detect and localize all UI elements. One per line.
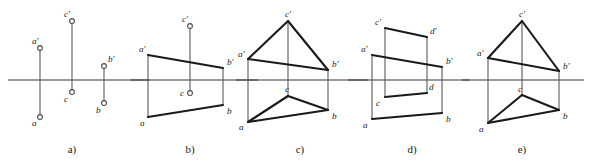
edge-c-ap-cp [248, 21, 288, 59]
vertex-label-e-bp: b' [563, 61, 571, 71]
edge-d-c-d [385, 93, 427, 97]
vertex-label-a-b: b [96, 105, 101, 115]
vertex-label-b-b: b [227, 106, 232, 116]
panel-caption-e: e) [518, 143, 527, 156]
vertex-label-c-b: b [332, 111, 337, 121]
point-marker-a-a [38, 115, 43, 120]
vertex-label-e-a: a [479, 124, 484, 134]
edge-e-a-c [488, 95, 522, 123]
point-marker-a-cp [70, 19, 75, 24]
edge-d-cp-dp [385, 28, 427, 37]
vertex-label-d-bp: b' [446, 56, 454, 66]
vertex-label-b-c: c [180, 88, 184, 98]
projection-drawing-canvas: a'ac'cb'ba)a'ac'cb'bb)a'ac'cb'bc)a'ac'cd… [0, 0, 592, 166]
edge-e-ap-cp [488, 21, 522, 58]
vertex-label-a-c: c [64, 94, 68, 104]
edge-e-c-b [522, 95, 559, 110]
vertex-label-d-ap: a' [361, 44, 369, 54]
vertex-label-e-cp: c' [519, 9, 526, 19]
vertex-label-c-ap: a' [238, 49, 246, 59]
edge-d-ap-bp [372, 55, 442, 67]
point-marker-b-cp [188, 24, 193, 29]
edge-e-ap-bp [488, 58, 559, 71]
edge-c-cp-bp [288, 21, 328, 70]
point-marker-a-b [102, 101, 107, 106]
edge-e-cp-bp [522, 21, 559, 71]
vertex-label-b-cp: c' [182, 14, 189, 24]
vertex-label-d-dp: d' [430, 26, 438, 36]
vertex-label-a-ap: a' [32, 36, 40, 46]
panel-caption-a: a) [68, 143, 77, 156]
panel-b: a'ac'cb'bb) [130, 14, 258, 156]
point-marker-a-ap [38, 46, 43, 51]
panel-e: a'ac'cb'be) [462, 9, 584, 156]
vertex-label-b-a: a [140, 118, 145, 128]
vertex-label-c-c: c [285, 84, 289, 94]
vertex-label-c-a: a [239, 122, 244, 132]
panel-c: a'ac'cb'bc) [236, 9, 368, 156]
point-marker-a-bp [102, 64, 107, 69]
vertex-label-c-cp: c' [285, 9, 292, 19]
vertex-label-a-bp: b' [108, 54, 116, 64]
vertex-label-d-a: a [363, 120, 368, 130]
point-marker-b-c [188, 91, 193, 96]
projection-figure: a'ac'cb'ba)a'ac'cb'bb)a'ac'cb'bc)a'ac'cd… [0, 0, 592, 166]
edge-c-a-b [248, 110, 328, 122]
vertex-label-c-bp: b' [332, 59, 340, 69]
edge-c-c-b [288, 96, 328, 110]
vertex-label-e-ap: a' [477, 48, 485, 58]
vertex-label-a-cp: c' [64, 9, 71, 19]
vertex-label-d-cp: c' [375, 17, 382, 27]
vertex-label-e-c: c [518, 84, 522, 94]
vertex-label-d-c: c [376, 98, 380, 108]
vertex-label-a-a: a [32, 118, 37, 128]
panel-caption-c: c) [296, 143, 305, 156]
vertex-label-d-d: d [429, 82, 434, 92]
vertex-label-e-b: b [563, 111, 568, 121]
panel-caption-d: d) [407, 143, 417, 156]
panel-d: a'ac'cd'db'bd) [348, 17, 470, 156]
panel-caption-b: b) [185, 143, 195, 156]
edge-b-a-b [148, 105, 223, 117]
vertex-label-b-bp: b' [227, 57, 235, 67]
vertex-label-d-b: b [446, 114, 451, 124]
vertex-label-b-ap: a' [139, 44, 147, 54]
point-marker-a-c [70, 90, 75, 95]
edge-e-a-b [488, 110, 559, 123]
edge-d-a-b [372, 113, 442, 119]
edge-b-ap-bp [148, 55, 223, 68]
panel-a: a'ac'cb'ba) [8, 9, 150, 156]
